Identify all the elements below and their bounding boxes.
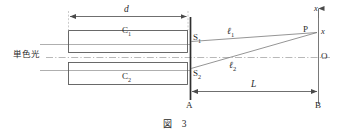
path-l1-label: ℓ1: [227, 27, 234, 38]
path-l2-label: ℓ2: [229, 61, 236, 72]
cell-c2-label: C2: [122, 72, 131, 83]
figure-container: 単色光 d C1 C2 S1 S2 ℓ1 ℓ2 x P x O A B L 図3: [0, 0, 349, 132]
axis-x-marker-label: x: [321, 27, 325, 36]
cell-c1-label: C1: [122, 26, 131, 37]
slit-s1-label: S1: [193, 33, 201, 44]
cell-c1-subscript: 1: [128, 31, 131, 37]
monochromatic-light-label: 単色光: [13, 50, 40, 59]
dimension-d-label: d: [124, 5, 129, 15]
point-p-label: P: [303, 25, 308, 34]
figure-caption-number: 3: [182, 119, 187, 129]
slit-s2-subscript: 2: [198, 74, 201, 80]
slit-s2-label: S2: [193, 69, 201, 80]
path-l1-subscript: 1: [231, 31, 234, 38]
path-l2-ray: [191, 33, 317, 69]
slit-s1-subscript: 1: [198, 38, 201, 44]
cell-c2-subscript: 2: [128, 77, 131, 83]
figure-caption-symbol: 図: [163, 119, 172, 129]
point-b-label: B: [315, 101, 321, 110]
figure-caption: 図3: [0, 113, 349, 131]
dimension-L-label: L: [251, 80, 256, 90]
point-o-label: O: [321, 52, 328, 61]
path-l1-ray: [191, 33, 317, 42]
axis-x-upper-label: x: [314, 4, 318, 13]
point-a-label: A: [186, 101, 193, 110]
path-l2-subscript: 2: [233, 65, 236, 72]
